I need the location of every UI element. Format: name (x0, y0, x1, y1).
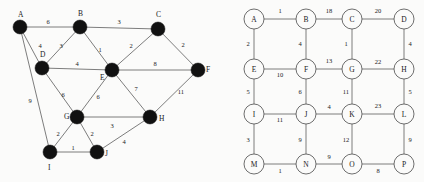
graph-edge-b-c (80, 27, 158, 29)
edge-weight-o-p: 8 (376, 167, 379, 174)
right-graph-node-labels: ABCDEFGHIJKLMNOP (251, 15, 408, 169)
edge-weight-c-e: 2 (129, 42, 132, 49)
graph-edge-a-i (20, 27, 50, 152)
node-label-g: G (64, 112, 70, 121)
edge-weight-d-h: 4 (408, 40, 412, 47)
graph-edge-e-g (77, 70, 112, 117)
node-label-n: N (303, 160, 309, 169)
figure-canvas: 64933122468671132241 ABCDEFGHIJ 11820241… (0, 0, 424, 182)
graph-edge-d-e (42, 68, 112, 70)
edge-weight-g-h: 22 (375, 58, 382, 65)
node-label-l: L (402, 110, 407, 119)
node-label-j: J (105, 149, 108, 158)
graph-edge-f-h (150, 70, 198, 117)
left-graph-edge-weights: 64933122468671132241 (28, 18, 184, 151)
edge-weight-b-e: 1 (98, 46, 101, 53)
edge-weight-h-j: 4 (122, 138, 126, 145)
edge-weight-c-g: 1 (344, 40, 347, 47)
node-label-c: C (349, 15, 354, 24)
edge-weight-i-m: 3 (246, 136, 249, 143)
edge-weight-l-p: 9 (408, 136, 411, 143)
graph-edge-d-g (42, 68, 77, 117)
graph-edge-c-f (158, 29, 198, 70)
left-graph-svg: 64933122468671132241 ABCDEFGHIJ (0, 0, 212, 182)
node-label-k: K (349, 110, 355, 119)
edge-weight-e-f: 8 (153, 60, 156, 67)
node-label-h: H (401, 65, 407, 74)
edge-weight-e-f: 10 (277, 71, 284, 78)
edge-weight-k-l: 23 (375, 102, 382, 109)
graph-edge-h-j (97, 117, 150, 152)
edge-weight-e-i: 5 (246, 88, 249, 95)
graph-node-h (143, 110, 157, 124)
left-graph-panel: 64933122468671132241 ABCDEFGHIJ (0, 0, 212, 182)
graph-edge-c-e (112, 29, 158, 70)
edge-weight-c-f: 2 (181, 41, 184, 48)
left-graph-edges (20, 27, 198, 152)
graph-node-d (35, 61, 49, 75)
right-graph-svg: 118202414101322561151142339129198 ABCDEF… (212, 0, 424, 182)
edge-weight-c-d: 20 (375, 7, 382, 14)
node-label-j: J (305, 110, 308, 119)
node-label-f: F (304, 65, 308, 74)
graph-node-b (73, 20, 87, 34)
edge-weight-a-b: 1 (278, 7, 281, 14)
node-label-b: B (78, 9, 83, 18)
edge-weight-i-j: 1 (71, 144, 74, 151)
node-label-e: E (100, 73, 105, 82)
edge-weight-b-c: 3 (117, 18, 120, 25)
edge-weight-d-g: 6 (61, 91, 65, 98)
edge-weight-f-j: 6 (298, 88, 302, 95)
edge-weight-e-g: 6 (96, 93, 100, 100)
edge-weight-j-n: 9 (298, 136, 301, 143)
edge-weight-a-e: 2 (246, 40, 249, 47)
right-graph-edges (254, 19, 404, 164)
graph-edge-b-e (80, 27, 112, 70)
edge-weight-a-d: 4 (38, 42, 42, 49)
edge-weight-n-o: 9 (327, 153, 330, 160)
edge-weight-f-h: 11 (178, 88, 184, 95)
edge-weight-g-h: 3 (110, 122, 113, 129)
node-label-f: F (206, 65, 210, 74)
edge-weight-a-b: 6 (46, 18, 50, 25)
edge-weight-j-k: 4 (327, 103, 331, 110)
node-label-c: C (156, 10, 161, 19)
graph-node-e (105, 63, 119, 77)
node-label-p: P (402, 160, 406, 169)
edge-weight-e-h: 7 (134, 85, 138, 92)
edge-weight-a-i: 9 (28, 97, 31, 104)
edge-weight-m-n: 1 (278, 167, 281, 174)
node-label-a: A (18, 10, 24, 19)
edge-weight-i-j: 11 (277, 116, 283, 123)
node-label-i: I (48, 163, 51, 172)
edge-weight-b-f: 4 (298, 40, 302, 47)
node-label-d: D (40, 50, 46, 59)
node-label-e: E (252, 65, 257, 74)
node-label-m: M (251, 160, 258, 169)
node-label-h: H (159, 114, 165, 123)
edge-weight-f-g: 13 (326, 57, 333, 64)
node-label-d: D (401, 15, 407, 24)
node-label-g: G (349, 65, 355, 74)
graph-node-f (191, 63, 205, 77)
graph-edge-e-h (112, 70, 150, 117)
edge-weight-g-i: 2 (56, 130, 59, 137)
edge-weight-g-j: 2 (90, 130, 93, 137)
right-graph-edge-weights: 118202414101322561151142339129198 (246, 7, 412, 174)
node-label-o: O (349, 160, 355, 169)
edge-weight-g-k: 11 (343, 88, 349, 95)
graph-node-g (70, 110, 84, 124)
right-graph-panel: 118202414101322561151142339129198 ABCDEF… (212, 0, 424, 182)
edge-weight-b-c: 18 (326, 7, 333, 14)
edge-weight-b-d: 3 (59, 42, 62, 49)
node-label-b: B (303, 15, 308, 24)
right-graph-nodes (244, 9, 414, 174)
graph-node-c (151, 22, 165, 36)
node-label-a: A (251, 15, 257, 24)
edge-weight-h-l: 5 (408, 88, 411, 95)
left-graph-nodes (13, 20, 205, 159)
edge-weight-k-o: 12 (343, 136, 350, 143)
graph-node-i (43, 145, 57, 159)
graph-node-a (13, 20, 27, 34)
graph-node-j (90, 145, 104, 159)
